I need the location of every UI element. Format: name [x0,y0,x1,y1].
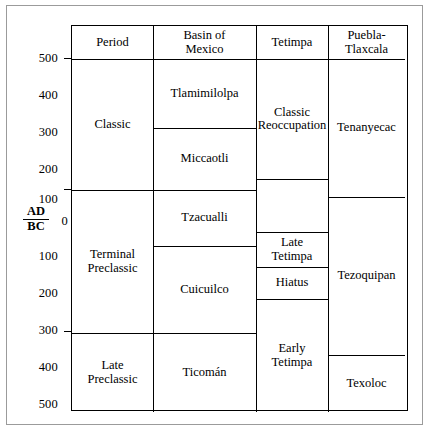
column-header-tetimpa: Tetimpa [256,26,328,59]
basin-cell-tlamimilolpa: Tlamimilolpa [153,59,256,128]
puebla-cell-tezoquipan: Tezoquipan [328,197,405,355]
period-terminal-line1: Terminal [90,248,135,262]
tetimpa-cell-early-tetimpa: Early Tetimpa [256,299,328,412]
period-late-line2: Preclassic [88,373,138,387]
column-header-basin-line1: Basin of [183,29,225,43]
era-divider-label: AD BC [14,206,58,232]
axis-tick-ad-200: 200 [18,163,58,175]
period-terminal-line2: Preclassic [88,262,138,276]
axis-tick-bc-200: 200 [18,287,58,299]
tetimpa-late-line1: Late [281,236,303,250]
axis-tick-bc-500: 500 [18,398,58,410]
axis-tick-ad-500: 500 [18,52,58,64]
axis-tickmark-ad-150 [64,189,71,190]
axis-tick-ad-300: 300 [18,126,58,138]
tetimpa-cell-classic-reoccupation: Classic Reoccupation [256,59,328,179]
axis-tickmark-ad-500 [64,58,71,59]
puebla-cell-tenanyecac: Tenanyecac [328,59,405,197]
axis-tick-bc-400: 400 [18,361,58,373]
tetimpa-early-line2: Tetimpa [272,356,313,370]
tetimpa-classic-line1: Classic [274,106,310,120]
axis-tick-bc-100: 100 [18,250,58,262]
chronology-chart-figure: 500 400 300 200 100 0 100 200 300 400 50… [0,0,430,432]
period-cell-terminal-preclassic: Terminal Preclassic [72,190,153,333]
puebla-cell-texoloc: Texoloc [328,355,405,412]
tetimpa-cell-late-tetimpa: Late Tetimpa [256,232,328,267]
era-bc-label: BC [14,221,58,232]
axis-tick-bc-300: 300 [18,324,58,336]
tetimpa-cell-gap [256,179,328,232]
tetimpa-late-line2: Tetimpa [272,250,313,264]
column-header-basin-of-mexico: Basin of Mexico [153,26,256,59]
axis-tickmark-bc-300 [64,331,71,332]
tetimpa-early-line1: Early [278,342,305,356]
column-header-basin-line2: Mexico [185,43,223,57]
column-header-puebla-tlaxcala: Puebla- Tlaxcala [328,26,405,59]
period-cell-late-preclassic: Late Preclassic [72,333,153,412]
column-header-puebla-line2: Tlaxcala [345,43,388,57]
chronology-table: Period Basin of Mexico Tetimpa Puebla- T… [71,25,408,411]
period-late-line1: Late [101,359,123,373]
era-ad-label: AD [14,206,58,217]
basin-cell-tzacualli: Tzacualli [153,190,256,246]
axis-tick-ad-400: 400 [18,89,58,101]
column-header-period: Period [72,26,153,59]
basin-cell-miccaotli: Miccaotli [153,128,256,190]
tetimpa-cell-hiatus: Hiatus [256,267,328,299]
period-cell-classic: Classic [72,59,153,190]
basin-cell-ticoman: Ticomán [153,333,256,412]
basin-cell-cuicuilco: Cuicuilco [153,246,256,333]
column-header-puebla-line1: Puebla- [347,29,385,43]
tetimpa-classic-line2: Reoccupation [258,119,327,133]
